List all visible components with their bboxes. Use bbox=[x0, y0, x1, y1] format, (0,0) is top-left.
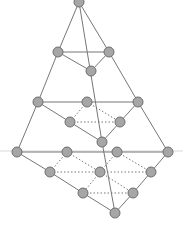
node-n19 bbox=[110, 208, 120, 218]
dotted-edge bbox=[100, 172, 133, 193]
edge bbox=[83, 193, 115, 213]
node-n0 bbox=[74, 0, 84, 7]
node-n15 bbox=[95, 167, 105, 177]
edge bbox=[58, 52, 91, 71]
edge bbox=[38, 52, 58, 102]
dotted-edge bbox=[87, 102, 120, 122]
node-n17 bbox=[78, 188, 88, 198]
edge bbox=[50, 172, 83, 193]
node-n12 bbox=[112, 147, 122, 157]
node-n4 bbox=[33, 97, 43, 107]
node-n2 bbox=[104, 47, 114, 57]
node-n16 bbox=[146, 167, 156, 177]
node-n5 bbox=[82, 97, 92, 107]
node-n6 bbox=[133, 97, 143, 107]
edge bbox=[70, 122, 102, 142]
edge bbox=[17, 102, 38, 152]
edge bbox=[58, 2, 79, 52]
node-n7 bbox=[65, 117, 75, 127]
edge bbox=[138, 102, 168, 152]
nodes bbox=[12, 0, 173, 218]
edge bbox=[17, 152, 50, 172]
node-n14 bbox=[45, 167, 55, 177]
node-n3 bbox=[86, 66, 96, 76]
dotted-edge bbox=[67, 152, 100, 172]
edge bbox=[38, 102, 70, 122]
node-n10 bbox=[12, 147, 22, 157]
node-n8 bbox=[115, 117, 125, 127]
node-n11 bbox=[62, 147, 72, 157]
dotted-edge bbox=[117, 152, 151, 172]
node-n13 bbox=[163, 147, 173, 157]
lattice-diagram bbox=[0, 0, 183, 227]
edge bbox=[109, 52, 138, 102]
node-n18 bbox=[128, 188, 138, 198]
node-n1 bbox=[53, 47, 63, 57]
node-n9 bbox=[97, 137, 107, 147]
